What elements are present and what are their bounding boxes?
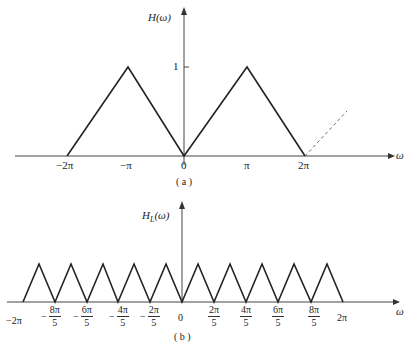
tick-b-6pi5: 6π5 (272, 305, 284, 328)
tick-b-8pi5: 8π5 (308, 305, 320, 328)
figure-a-axes (15, 12, 388, 165)
denominator: 5 (52, 317, 57, 328)
tick-a-2pi: 2π (298, 160, 309, 171)
y-label-b: HL(ω) (142, 210, 170, 224)
numerator: 6π (272, 305, 284, 317)
tick-a-m2pi: −2π (56, 160, 73, 171)
x-arrow-a-icon (388, 153, 395, 159)
denominator: 5 (120, 317, 125, 328)
tick-b-m4pi5: − 4π5 (109, 305, 129, 328)
tick-b-2pi5: 2π5 (208, 305, 220, 328)
minus-sign: − (140, 312, 146, 322)
numerator: 4π (240, 305, 252, 317)
tick-b-m2pi5: − 2π5 (140, 305, 160, 328)
y-arrow-a-icon (181, 7, 187, 15)
denominator: 5 (312, 317, 317, 328)
tick-b-4pi5: 4π5 (240, 305, 252, 328)
denominator: 5 (212, 317, 217, 328)
numerator: 2π (148, 305, 160, 317)
tick-a-pi: π (244, 160, 250, 171)
numerator: 8π (49, 305, 61, 317)
tick-a-zero: 0 (181, 160, 187, 171)
tick-b-2pi: 2π (337, 313, 347, 323)
tick-a-mpi: −π (120, 160, 132, 171)
x-label-b: ω (396, 306, 404, 317)
denominator: 5 (151, 317, 156, 328)
caption-a: ( a ) (176, 177, 192, 187)
caption-b: ( b ) (174, 332, 191, 342)
y-label-b-arg: (ω) (154, 209, 169, 221)
minus-sign: − (109, 312, 115, 322)
h-omega-curve (67, 67, 305, 156)
diagram-canvas (0, 0, 411, 348)
denominator: 5 (276, 317, 281, 328)
tick-b-m8pi5: − 8π5 (41, 305, 61, 328)
x-label-a: ω (396, 150, 404, 161)
tick-b-m6pi5: − 6π5 (73, 305, 93, 328)
tick-b-zero: 0 (178, 313, 183, 323)
numerator: 6π (81, 305, 93, 317)
y-arrow-b-icon (179, 201, 185, 209)
numerator: 4π (117, 305, 129, 317)
denominator: 5 (84, 317, 89, 328)
numerator: 2π (208, 305, 220, 317)
y-label-b-main: H (142, 209, 150, 221)
hl-omega-curve (23, 264, 343, 302)
tick-b-m2pi: −2π (6, 316, 22, 326)
numerator: 8π (308, 305, 320, 317)
dashed-continuation (305, 111, 347, 156)
y-tick-label-1: 1 (173, 61, 179, 72)
y-label-a: H(ω) (148, 12, 171, 23)
denominator: 5 (244, 317, 249, 328)
minus-sign: − (73, 312, 79, 322)
minus-sign: − (41, 312, 47, 322)
